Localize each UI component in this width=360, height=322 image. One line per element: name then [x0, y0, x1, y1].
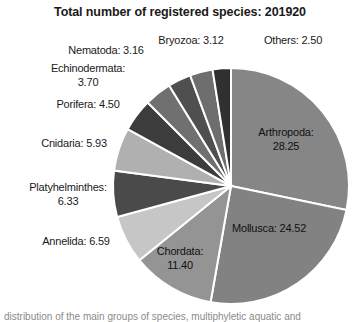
pie-slice-label: Cnidaria: 5.93 [25, 137, 123, 151]
pie-slice-label: Platyhelminthes: 6.33 [8, 181, 128, 208]
pie-slice-label: Echinodermata: 3.70 [36, 62, 140, 89]
pie-slice-label: Chordata: 11.40 [144, 245, 216, 272]
pie-slice-label: Others: 2.50 [250, 34, 336, 48]
pie-slice-label: Porifera: 4.50 [38, 98, 138, 112]
pie-slice-label: Bryozoa: 3.12 [148, 34, 234, 48]
pie-slice-label: Nematoda: 3.16 [58, 44, 154, 58]
pie-chart-figure: Total number of registered species: 2019… [0, 0, 360, 322]
pie-slice-label: Mollusca: 24.52 [232, 222, 330, 236]
figure-caption-clip: distribution of the main groups of speci… [0, 312, 360, 322]
figure-caption: distribution of the main groups of speci… [4, 312, 301, 322]
pie-chart-canvas [0, 0, 360, 322]
pie-slice-label: Arthropoda: 28.25 [238, 126, 334, 153]
pie-slice-label: Annelida: 6.59 [24, 235, 128, 249]
